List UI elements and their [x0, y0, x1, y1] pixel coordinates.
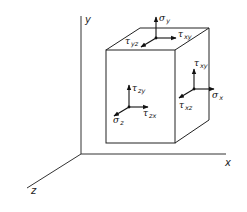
right-face-edges [175, 28, 209, 143]
tau-xz-arrow [179, 89, 194, 98]
sigma-x-label: σx [212, 90, 223, 102]
right-face-stresses: τxy σx τxz [179, 58, 223, 112]
tau-xz-label: τxz [179, 100, 193, 112]
y-axis-label: y [84, 14, 92, 25]
z-axis [27, 154, 81, 188]
tau-xy-top-label: τxy [178, 29, 192, 41]
top-face-stresses: σy τxy τyz [125, 13, 192, 48]
tau-xy-right-label: τxy [194, 58, 208, 70]
front-face-stresses: τzy τzx σz [113, 83, 156, 127]
x-axis-label: x [224, 157, 231, 168]
z-axis-label: z [30, 185, 37, 196]
tau-zx-label: τzx [143, 108, 156, 120]
tau-yz-label: τyz [125, 36, 139, 48]
sigma-y-label: σy [159, 13, 170, 25]
front-face [106, 50, 175, 143]
tau-yz-arrow [141, 38, 156, 47]
tau-zy-label: τzy [132, 83, 145, 95]
sigma-z-label: σz [113, 115, 124, 127]
stress-element-diagram: y x z σy τxy τyz τxy σx τxz τzy τzx σz [0, 0, 247, 212]
top-face-edges [106, 28, 209, 50]
